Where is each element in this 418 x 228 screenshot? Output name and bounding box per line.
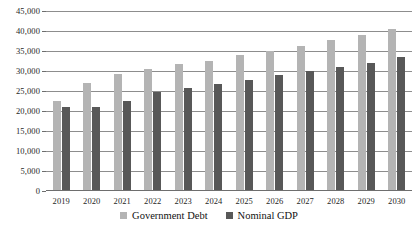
legend-label: Nominal GDP: [238, 210, 298, 221]
bar-nominal-gdp-2022: [153, 92, 161, 191]
x-axis-label-2029: 2029: [351, 193, 382, 209]
x-axis-baseline: [46, 190, 412, 191]
bar-nominal-gdp-2026: [275, 75, 283, 191]
bar-nominal-gdp-2025: [245, 80, 253, 191]
x-axis-labels: 2019202020212022202320242025202620272028…: [46, 193, 412, 209]
bar-group: [138, 11, 169, 191]
bar-group: [199, 11, 230, 191]
x-axis-label-2027: 2027: [290, 193, 321, 209]
y-axis-tick-label: 40,000: [16, 26, 40, 36]
y-axis-tick-label: 10,000: [16, 146, 40, 156]
y-axis-tick-label: 25,000: [16, 86, 40, 96]
x-axis-label-2019: 2019: [46, 193, 77, 209]
bar-nominal-gdp-2030: [397, 57, 405, 191]
bar-group: [260, 11, 291, 191]
legend-item-government-debt[interactable]: Government Debt: [120, 210, 208, 221]
bar-government-debt-2030: [388, 29, 396, 191]
plot-area: [46, 11, 412, 191]
x-axis-label-2028: 2028: [321, 193, 352, 209]
y-axis-tick: 5,000: [20, 166, 46, 176]
x-axis-label-2023: 2023: [168, 193, 199, 209]
y-axis-tick: 0: [36, 186, 46, 196]
y-axis-tick: 30,000: [16, 66, 46, 76]
legend-swatch-icon: [226, 212, 233, 219]
chart-legend: Government DebtNominal GDP: [0, 210, 418, 221]
y-axis-tick: 15,000: [16, 126, 46, 136]
x-axis-label-2030: 2030: [382, 193, 413, 209]
y-axis-tick-label: 30,000: [16, 66, 40, 76]
x-axis-label-2024: 2024: [199, 193, 230, 209]
bar-government-debt-2029: [358, 35, 366, 191]
bar-group: [46, 11, 77, 191]
legend-label: Government Debt: [132, 210, 208, 221]
bar-nominal-gdp-2029: [367, 63, 375, 191]
bar-government-debt-2023: [175, 64, 183, 191]
bar-government-debt-2028: [327, 40, 335, 191]
bar-government-debt-2025: [236, 55, 244, 191]
bar-government-debt-2027: [297, 46, 305, 191]
bar-group: [382, 11, 413, 191]
y-axis-tick-label: 20,000: [16, 106, 40, 116]
grouped-bar-chart: 05,00010,00015,00020,00025,00030,00035,0…: [0, 0, 418, 228]
bar-nominal-gdp-2019: [62, 107, 70, 191]
bar-nominal-gdp-2027: [306, 71, 314, 191]
bar-group: [107, 11, 138, 191]
bar-group: [290, 11, 321, 191]
y-axis-tick: 25,000: [16, 86, 46, 96]
legend-swatch-icon: [120, 212, 127, 219]
y-axis-tick-label: 15,000: [16, 126, 40, 136]
y-axis-tick: 35,000: [16, 46, 46, 56]
bar-group: [168, 11, 199, 191]
y-axis-tick-label: 45,000: [16, 6, 40, 16]
x-axis-label-2025: 2025: [229, 193, 260, 209]
legend-item-nominal-gdp[interactable]: Nominal GDP: [226, 210, 298, 221]
y-axis-tick: 20,000: [16, 106, 46, 116]
y-axis-tick-label: 5,000: [20, 166, 40, 176]
bar-nominal-gdp-2023: [184, 88, 192, 191]
bar-nominal-gdp-2028: [336, 67, 344, 191]
y-axis-tick: 45,000: [16, 6, 46, 16]
y-axis: 05,00010,00015,00020,00025,00030,00035,0…: [0, 11, 46, 191]
y-axis-tick: 40,000: [16, 26, 46, 36]
bar-government-debt-2024: [205, 61, 213, 191]
y-axis-tick-label: 0: [36, 186, 40, 196]
bar-government-debt-2026: [266, 51, 274, 191]
bar-group: [321, 11, 352, 191]
x-axis-label-2021: 2021: [107, 193, 138, 209]
bar-government-debt-2021: [114, 74, 122, 191]
bar-government-debt-2020: [83, 83, 91, 191]
x-axis-label-2020: 2020: [77, 193, 108, 209]
bar-nominal-gdp-2020: [92, 107, 100, 191]
y-axis-tick-label: 35,000: [16, 46, 40, 56]
bar-groups: [46, 11, 412, 191]
bar-group: [77, 11, 108, 191]
y-axis-tick: 10,000: [16, 146, 46, 156]
x-axis-label-2026: 2026: [260, 193, 291, 209]
bar-government-debt-2019: [53, 101, 61, 191]
bar-nominal-gdp-2024: [214, 84, 222, 191]
x-axis-label-2022: 2022: [138, 193, 169, 209]
bar-nominal-gdp-2021: [123, 101, 131, 191]
bar-group: [229, 11, 260, 191]
bar-government-debt-2022: [144, 69, 152, 191]
bar-group: [351, 11, 382, 191]
